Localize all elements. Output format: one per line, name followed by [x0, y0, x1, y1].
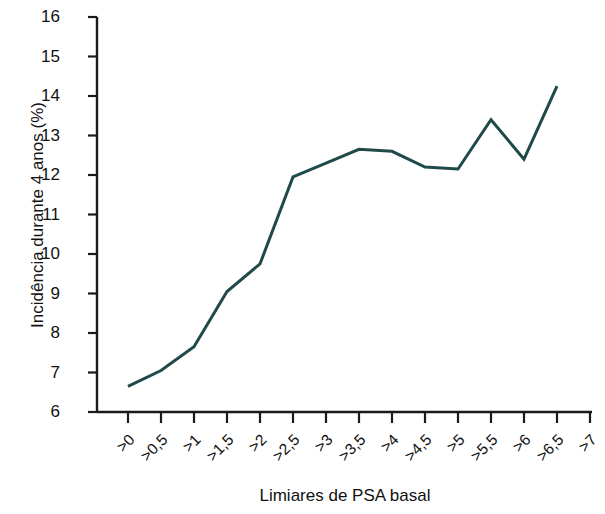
chart-figure: Incidência durante 4 anos (%) 1615141312… — [0, 0, 605, 514]
x-axis-tick-labels: >0>0,5>1>1,5>2>2,5>3>3,5>4>4,5>5>5,5>6>6… — [0, 0, 605, 514]
x-axis-title: Limiares de PSA basal — [97, 486, 593, 506]
